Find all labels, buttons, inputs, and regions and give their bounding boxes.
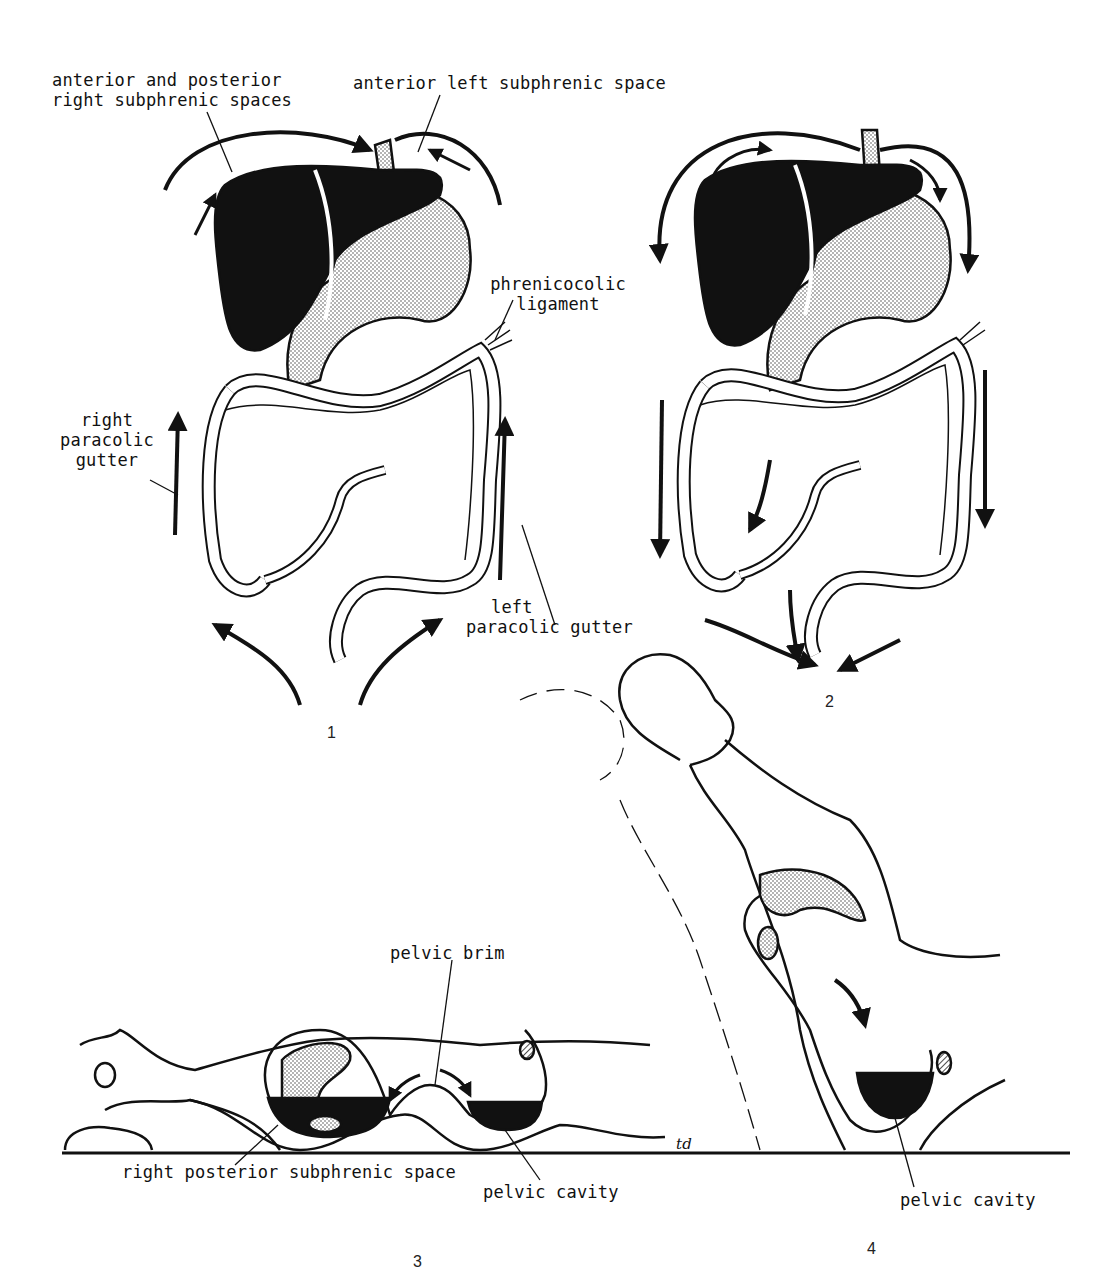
label-pelvic-brim: pelvic brim	[390, 943, 505, 963]
label-line: left	[466, 597, 633, 617]
label-line: phrenicocolic	[483, 274, 633, 294]
label-right-posterior-subphrenic: right posterior subphrenic space	[122, 1162, 456, 1182]
label-line: right subphrenic spaces	[52, 90, 252, 110]
anatomy-illustration	[0, 0, 1119, 1285]
panel-number-1: 1	[327, 724, 336, 742]
label-right-paracolic-gutter: right paracolic gutter	[52, 410, 162, 470]
label-left-paracolic-gutter: left paracolic gutter	[466, 597, 633, 637]
label-line: anterior and posterior	[52, 70, 252, 90]
label-line: ligament	[483, 294, 633, 314]
panel-2	[659, 130, 985, 670]
artist-signature: td	[676, 1134, 692, 1154]
panel-3	[62, 960, 1070, 1180]
label-line: gutter	[52, 450, 162, 470]
label-phrenicocolic-ligament: phrenicocolic ligament	[483, 274, 633, 314]
label-ant-left-subphrenic: anterior left subphrenic space	[353, 73, 666, 93]
panel-4	[520, 654, 1005, 1187]
panel-number-3: 3	[413, 1253, 422, 1271]
label-pelvic-cavity-3: pelvic cavity	[483, 1182, 619, 1202]
panel-number-2: 2	[825, 693, 834, 711]
label-line: paracolic gutter	[466, 617, 633, 637]
panel-number-4: 4	[867, 1240, 876, 1258]
label-pelvic-cavity-4: pelvic cavity	[900, 1190, 1036, 1210]
label-ant-post-right-subphrenic: anterior and posterior right subphrenic …	[52, 70, 252, 110]
label-line: right	[52, 410, 162, 430]
label-line: paracolic	[52, 430, 162, 450]
